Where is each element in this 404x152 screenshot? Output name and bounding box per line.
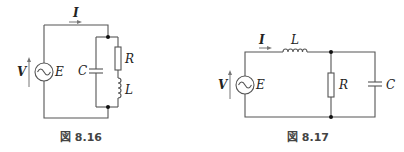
label-current: I bbox=[258, 33, 265, 47]
caption-figure-8-17: 図 8.17 bbox=[287, 130, 329, 144]
label-capacitor: C bbox=[386, 78, 395, 92]
current-arrow-icon bbox=[69, 20, 82, 24]
capacitor-icon bbox=[368, 82, 382, 86]
node-bottom bbox=[106, 105, 110, 109]
caption-figure-8-16: 図 8.16 bbox=[60, 130, 102, 144]
label-source: E bbox=[54, 65, 64, 79]
ac-source-icon bbox=[35, 63, 53, 81]
label-capacitor: C bbox=[78, 64, 87, 78]
inductor-icon bbox=[283, 49, 307, 52]
label-voltage: V bbox=[17, 65, 28, 79]
figure-8-17: I L V E R C 図 8.17 bbox=[218, 33, 395, 144]
label-inductor: L bbox=[124, 83, 133, 97]
voltage-arrow-icon bbox=[228, 70, 232, 99]
label-current: I bbox=[72, 6, 79, 20]
resistor-icon bbox=[115, 47, 121, 70]
resistor-icon bbox=[328, 73, 334, 97]
wire-left-lower bbox=[44, 81, 108, 118]
label-inductor: L bbox=[290, 33, 299, 47]
ac-source-icon bbox=[236, 76, 254, 94]
label-resistor: R bbox=[124, 52, 134, 66]
label-resistor: R bbox=[338, 78, 348, 92]
inductor-icon bbox=[118, 78, 121, 98]
label-voltage: V bbox=[218, 78, 229, 92]
node-top bbox=[106, 35, 110, 39]
circuit-diagrams: I V E C R L 図 8.16 bbox=[0, 0, 404, 152]
node-bottom bbox=[329, 115, 333, 119]
label-source: E bbox=[255, 78, 265, 92]
wire-left-upper bbox=[245, 52, 283, 76]
voltage-arrow-icon bbox=[27, 57, 31, 87]
wire-top bbox=[44, 25, 108, 37]
capacitor-icon bbox=[89, 69, 103, 73]
figure-8-16: I V E C R L 図 8.16 bbox=[17, 6, 134, 144]
node-top bbox=[329, 50, 333, 54]
